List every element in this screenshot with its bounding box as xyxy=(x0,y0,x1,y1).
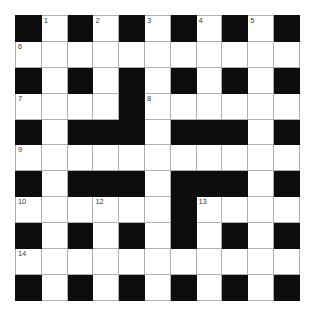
crossword-letter-cell[interactable] xyxy=(248,223,274,249)
cell-number: 9 xyxy=(18,145,22,155)
cell-number: 10 xyxy=(18,197,26,207)
crossword-letter-cell[interactable] xyxy=(170,93,196,119)
crossword-letter-cell[interactable] xyxy=(222,41,248,67)
crossword-block-cell xyxy=(170,119,196,145)
crossword-block-cell xyxy=(222,171,248,197)
crossword-letter-cell[interactable] xyxy=(248,197,274,223)
crossword-letter-cell[interactable]: 7 xyxy=(16,93,42,119)
crossword-letter-cell[interactable] xyxy=(170,41,196,67)
crossword-letter-cell[interactable] xyxy=(67,41,93,67)
crossword-letter-cell[interactable] xyxy=(41,197,67,223)
crossword-letter-cell[interactable]: 14 xyxy=(16,249,42,275)
crossword-letter-cell[interactable] xyxy=(248,274,274,300)
crossword-letter-cell[interactable] xyxy=(41,93,67,119)
crossword-letter-cell[interactable] xyxy=(119,249,145,275)
crossword-letter-cell[interactable] xyxy=(119,41,145,67)
crossword-letter-cell[interactable] xyxy=(93,67,119,93)
crossword-letter-cell[interactable] xyxy=(273,41,299,67)
crossword-letter-cell[interactable] xyxy=(248,93,274,119)
crossword-letter-cell[interactable] xyxy=(248,67,274,93)
crossword-letter-cell[interactable] xyxy=(67,249,93,275)
crossword-letter-cell[interactable] xyxy=(144,171,170,197)
crossword-letter-cell[interactable]: 9 xyxy=(16,145,42,171)
crossword-block-cell xyxy=(16,67,42,93)
crossword-letter-cell[interactable] xyxy=(93,274,119,300)
crossword-letter-cell[interactable] xyxy=(144,197,170,223)
crossword-letter-cell[interactable] xyxy=(196,41,222,67)
crossword-block-cell xyxy=(222,274,248,300)
crossword-letter-cell[interactable] xyxy=(119,197,145,223)
crossword-block-cell xyxy=(119,119,145,145)
crossword-letter-cell[interactable] xyxy=(222,93,248,119)
crossword-letter-cell[interactable] xyxy=(170,145,196,171)
crossword-letter-cell[interactable] xyxy=(119,145,145,171)
crossword-letter-cell[interactable] xyxy=(273,145,299,171)
crossword-letter-cell[interactable] xyxy=(170,249,196,275)
crossword-letter-cell[interactable]: 12 xyxy=(93,197,119,223)
crossword-block-cell xyxy=(16,223,42,249)
cell-number: 1 xyxy=(44,16,48,26)
crossword-letter-cell[interactable] xyxy=(144,223,170,249)
crossword-letter-cell[interactable] xyxy=(144,145,170,171)
crossword-letter-cell[interactable] xyxy=(196,67,222,93)
crossword-letter-cell[interactable] xyxy=(248,171,274,197)
crossword-letter-cell[interactable]: 4 xyxy=(196,16,222,42)
crossword-block-cell xyxy=(170,171,196,197)
crossword-letter-cell[interactable]: 5 xyxy=(248,16,274,42)
crossword-letter-cell[interactable] xyxy=(41,119,67,145)
crossword-letter-cell[interactable] xyxy=(273,249,299,275)
crossword-letter-cell[interactable] xyxy=(93,223,119,249)
crossword-block-cell xyxy=(170,197,196,223)
cell-number: 5 xyxy=(250,16,254,26)
crossword-letter-cell[interactable] xyxy=(196,274,222,300)
crossword-letter-cell[interactable] xyxy=(144,274,170,300)
crossword-letter-cell[interactable] xyxy=(196,145,222,171)
crossword-letter-cell[interactable] xyxy=(41,274,67,300)
crossword-letter-cell[interactable] xyxy=(248,41,274,67)
crossword-letter-cell[interactable]: 1 xyxy=(41,16,67,42)
crossword-letter-cell[interactable] xyxy=(93,249,119,275)
crossword-letter-cell[interactable] xyxy=(248,119,274,145)
crossword-letter-cell[interactable] xyxy=(41,171,67,197)
crossword-letter-cell[interactable] xyxy=(41,67,67,93)
crossword-letter-cell[interactable] xyxy=(144,119,170,145)
crossword-letter-cell[interactable]: 13 xyxy=(196,197,222,223)
crossword-letter-cell[interactable] xyxy=(93,93,119,119)
crossword-letter-cell[interactable] xyxy=(41,41,67,67)
crossword-letter-cell[interactable] xyxy=(144,249,170,275)
crossword-letter-cell[interactable]: 3 xyxy=(144,16,170,42)
crossword-letter-cell[interactable] xyxy=(67,145,93,171)
crossword-block-cell xyxy=(67,274,93,300)
crossword-letter-cell[interactable] xyxy=(144,67,170,93)
crossword-letter-cell[interactable] xyxy=(144,41,170,67)
crossword-grid-body: 12345678910121314 xyxy=(16,16,300,301)
crossword-letter-cell[interactable]: 8 xyxy=(144,93,170,119)
crossword-letter-cell[interactable] xyxy=(196,93,222,119)
crossword-letter-cell[interactable] xyxy=(248,145,274,171)
crossword-letter-cell[interactable] xyxy=(273,93,299,119)
crossword-block-cell xyxy=(93,171,119,197)
crossword-letter-cell[interactable] xyxy=(93,41,119,67)
crossword-grid[interactable]: 12345678910121314 xyxy=(15,15,300,301)
crossword-block-cell xyxy=(67,119,93,145)
crossword-letter-cell[interactable] xyxy=(67,93,93,119)
crossword-block-cell xyxy=(222,16,248,42)
crossword-letter-cell[interactable] xyxy=(222,197,248,223)
crossword-letter-cell[interactable] xyxy=(41,249,67,275)
crossword-letter-cell[interactable] xyxy=(41,145,67,171)
crossword-block-cell xyxy=(16,16,42,42)
crossword-letter-cell[interactable] xyxy=(196,223,222,249)
crossword-row: 12345 xyxy=(16,16,300,42)
crossword-letter-cell[interactable] xyxy=(222,249,248,275)
crossword-letter-cell[interactable] xyxy=(196,249,222,275)
crossword-letter-cell[interactable] xyxy=(248,249,274,275)
crossword-letter-cell[interactable]: 2 xyxy=(93,16,119,42)
crossword-letter-cell[interactable]: 6 xyxy=(16,41,42,67)
crossword-letter-cell[interactable] xyxy=(67,197,93,223)
crossword-letter-cell[interactable] xyxy=(273,197,299,223)
cell-number: 3 xyxy=(147,16,151,26)
crossword-letter-cell[interactable]: 10 xyxy=(16,197,42,223)
crossword-letter-cell[interactable] xyxy=(222,145,248,171)
crossword-letter-cell[interactable] xyxy=(41,223,67,249)
crossword-letter-cell[interactable] xyxy=(93,145,119,171)
